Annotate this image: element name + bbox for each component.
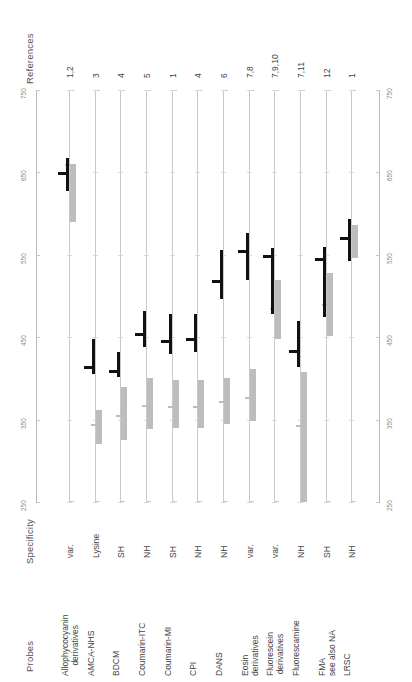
- excitation-typical-marker: [58, 172, 69, 175]
- specificity-value: Lysine: [91, 558, 115, 568]
- grid-stub: [221, 90, 226, 91]
- grid-stub: [324, 420, 329, 421]
- excitation-typical-marker: [186, 338, 197, 341]
- axis-tick: [376, 90, 380, 91]
- grid-stub: [349, 90, 354, 91]
- emission-range-bar[interactable]: [70, 164, 76, 222]
- excitation-typical-marker: [161, 340, 172, 343]
- probe-name-line1: Fluorescamine: [291, 620, 301, 676]
- excitation-range-bar[interactable]: [271, 248, 274, 314]
- specificity-value: NH: [347, 558, 359, 568]
- emission-range-bar[interactable]: [173, 380, 179, 428]
- specificity-value: var.: [65, 558, 79, 568]
- reference-value: 4: [193, 78, 198, 88]
- grid-stub: [272, 90, 277, 91]
- grid-stub: [349, 337, 354, 338]
- probe-name[interactable]: Coumarin-MI: [163, 676, 212, 682]
- grid-stub: [144, 90, 149, 91]
- grid-stub: [247, 337, 252, 338]
- emission-range-bar[interactable]: [352, 225, 358, 258]
- probe-name[interactable]: CPI: [188, 676, 202, 682]
- emission-range-bar[interactable]: [198, 380, 204, 428]
- excitation-range-bar[interactable]: [297, 321, 300, 367]
- excitation-range-bar[interactable]: [246, 233, 249, 279]
- probe-name[interactable]: DANS: [214, 676, 238, 682]
- grid-stub: [298, 90, 303, 91]
- specificity-value: SH: [322, 558, 334, 568]
- excitation-range-bar[interactable]: [194, 314, 197, 352]
- probe-name-line1: BDCM: [111, 651, 121, 676]
- column-baseline: [146, 90, 147, 502]
- axis-tick-label: 250: [386, 511, 397, 518]
- emission-typical-marker: [193, 406, 204, 408]
- axis-tick: [36, 502, 40, 503]
- excitation-range-bar[interactable]: [348, 219, 351, 262]
- column-baseline: [351, 90, 352, 502]
- grid-stub: [144, 255, 149, 256]
- grid-stub: [221, 502, 226, 503]
- excitation-typical-marker: [238, 250, 249, 253]
- axis-tick-label: 350: [20, 429, 31, 436]
- grid-stub: [170, 172, 175, 173]
- probe-name[interactable]: LRSC: [342, 676, 365, 682]
- grid-stub: [349, 172, 354, 173]
- axis-tick: [36, 255, 40, 256]
- excitation-range-bar[interactable]: [143, 311, 146, 347]
- specificity-value: NH: [296, 558, 308, 568]
- probe-name-line1: Allophycocyanin: [60, 615, 70, 676]
- grid-stub: [221, 172, 226, 173]
- emission-range-bar[interactable]: [250, 369, 256, 422]
- probe-name-line1: Coumarin-ITC: [137, 623, 147, 676]
- grid-stub: [324, 502, 329, 503]
- reference-value: 12: [322, 78, 331, 88]
- emission-range-bar[interactable]: [301, 372, 307, 502]
- emission-typical-marker: [142, 405, 153, 407]
- grid-stub: [93, 172, 98, 173]
- excitation-range-bar[interactable]: [169, 314, 172, 354]
- reference-value: 1,2: [65, 78, 77, 88]
- probe-name-line2: see also NA: [327, 630, 337, 676]
- reference-value: 1: [347, 78, 352, 88]
- column-baseline: [197, 90, 198, 502]
- emission-typical-marker: [219, 401, 230, 403]
- emission-range-bar[interactable]: [121, 387, 127, 441]
- grid-stub: [349, 502, 354, 503]
- axis-tick-label: 750: [20, 99, 31, 106]
- axis-tick-label: 550: [20, 264, 31, 271]
- axis-tick: [376, 172, 380, 173]
- grid-stub: [118, 502, 123, 503]
- grid-stub: [67, 420, 72, 421]
- grid-stub: [144, 172, 149, 173]
- emission-range-bar[interactable]: [96, 410, 102, 445]
- reference-value: 7,9,10: [270, 78, 294, 88]
- axis-tick: [36, 172, 40, 173]
- grid-stub: [67, 90, 72, 91]
- grid-stub: [272, 502, 277, 503]
- specificity-value: NH: [142, 558, 154, 568]
- grid-stub: [247, 172, 252, 173]
- axis-tick-label: 650: [20, 181, 31, 188]
- axis-tick: [376, 337, 380, 338]
- probe-name-line1: Coumarin-MI: [163, 627, 173, 676]
- grid-stub: [118, 337, 123, 338]
- specificity-row-label: Specificity: [24, 564, 69, 575]
- probe-name-line1: FMA: [317, 658, 327, 676]
- column-baseline: [69, 90, 70, 502]
- grid-stub: [195, 255, 200, 256]
- reference-value: 7,8: [245, 78, 257, 88]
- probe-name[interactable]: BDCM: [111, 676, 136, 682]
- probe-name-line2: derivatives: [250, 635, 260, 676]
- excitation-typical-marker: [289, 350, 300, 353]
- grid-stub: [170, 255, 175, 256]
- excitation-range-bar[interactable]: [220, 250, 223, 299]
- grid-stub: [247, 502, 252, 503]
- grid-stub: [93, 90, 98, 91]
- grid-stub: [324, 337, 329, 338]
- axis-tick-label: 450: [386, 346, 397, 353]
- reference-value: 7,11: [296, 78, 312, 88]
- reference-value: 3: [91, 78, 96, 88]
- grid-stub: [67, 337, 72, 338]
- emission-typical-marker: [116, 415, 127, 417]
- probe-name-line1: Fluorescein: [265, 632, 275, 676]
- axis-tick-label: 550: [386, 264, 397, 271]
